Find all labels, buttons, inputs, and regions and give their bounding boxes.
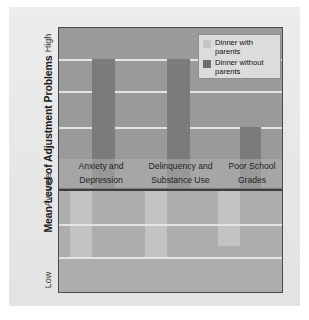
gridline-4: [59, 224, 282, 226]
category-label-line1: Anxiety and: [61, 159, 141, 173]
bar-light-poor-school-grades: [218, 189, 240, 246]
plot-band-below-average: [59, 189, 282, 292]
legend-item-dinner-without-parents: Dinner without parents: [203, 59, 277, 76]
legend-label-line2: parents: [215, 67, 240, 76]
y-tick-low: Low: [43, 250, 53, 310]
chart-legend: Dinner with parents Dinner without paren…: [198, 34, 281, 79]
category-label-delinquency-substance-use: Delinquency and Substance Use: [134, 159, 227, 187]
y-tick-high: High: [43, 13, 53, 73]
category-label-line2: Substance Use: [134, 173, 227, 187]
category-label-poor-school-grades: Poor School Grades: [219, 159, 283, 187]
legend-label-dinner-without-parents: Dinner without parents: [215, 59, 264, 76]
legend-label-line2: parents: [215, 47, 240, 56]
category-label-line2: Grades: [219, 173, 283, 187]
chart-figure: Mean Level of Adjustment Problems High A…: [0, 0, 309, 320]
category-label-line1: Poor School: [219, 159, 283, 173]
y-tick-average: Average: [43, 160, 53, 220]
category-label-line2: Depression: [61, 173, 141, 187]
category-label-line1: Delinquency and: [134, 159, 227, 173]
legend-label-dinner-with-parents: Dinner with parents: [215, 39, 253, 56]
gridline-5: [59, 257, 282, 259]
legend-item-dinner-with-parents: Dinner with parents: [203, 39, 277, 56]
plot-area: Anxiety and Depression Delinquency and S…: [58, 27, 283, 293]
legend-swatch-light-icon: [203, 40, 211, 48]
category-label-strip: Anxiety and Depression Delinquency and S…: [59, 159, 282, 189]
legend-swatch-dark-icon: [203, 60, 211, 68]
category-label-anxiety-depression: Anxiety and Depression: [61, 159, 141, 187]
